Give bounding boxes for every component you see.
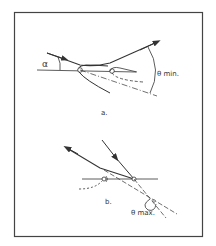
theta-max-vertex <box>153 200 156 203</box>
scattering-diagram: α θ min. a. θ max. b. <box>0 0 216 246</box>
alpha-label: α <box>42 59 48 69</box>
dashed-line-b1 <box>104 170 177 214</box>
outgoing-ray <box>140 42 157 50</box>
dashed-curve <box>112 73 143 82</box>
incoming-ray-b <box>102 140 116 158</box>
hyperbola-curve <box>78 65 110 93</box>
outgoing-trajectory-b <box>70 150 134 179</box>
panel-a: α θ min. a. <box>37 42 179 117</box>
alpha-arc <box>58 57 60 70</box>
outgoing-ray-b <box>67 148 78 154</box>
reference-line <box>37 70 136 72</box>
panel-b-label: b. <box>105 198 112 206</box>
trajectory <box>47 43 155 66</box>
panel-a-label: a. <box>101 109 108 117</box>
theta-min-label: θ min. <box>157 70 179 78</box>
theta-max-label: θ max. <box>131 209 155 217</box>
scatter-center-b1 <box>102 177 106 181</box>
dotted-curve-b <box>79 181 102 189</box>
theta-min-arc <box>148 47 156 93</box>
panel-b: θ max. b. <box>67 140 177 218</box>
